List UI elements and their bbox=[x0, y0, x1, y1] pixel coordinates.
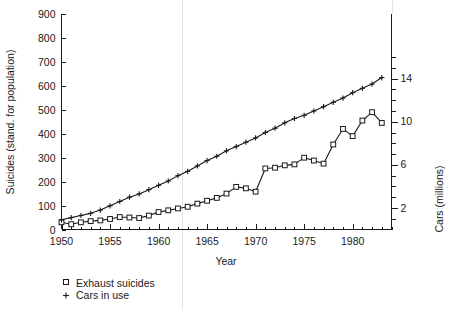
data-point-marker-square bbox=[224, 191, 229, 196]
left-tick-label: 400 bbox=[38, 128, 56, 140]
data-point-marker-square bbox=[88, 219, 93, 224]
x-axis-title: Year bbox=[215, 255, 237, 267]
data-point-marker-square bbox=[253, 189, 258, 194]
data-point-marker-square bbox=[350, 134, 355, 139]
data-point-marker-square bbox=[282, 163, 287, 168]
x-tick-label: 1955 bbox=[98, 235, 122, 247]
left-tick-label: 500 bbox=[38, 104, 56, 116]
right-tick-label: 2 bbox=[401, 202, 407, 214]
data-point-marker-square bbox=[341, 127, 346, 132]
left-tick-label: 300 bbox=[38, 152, 56, 164]
data-point-marker-square bbox=[379, 121, 384, 126]
x-tick-label: 1975 bbox=[292, 235, 316, 247]
left-tick-label: 800 bbox=[38, 32, 56, 44]
data-point-marker-square bbox=[244, 186, 249, 191]
left-tick-label: 900 bbox=[38, 8, 56, 20]
data-point-marker-square bbox=[185, 204, 190, 209]
data-point-marker-square bbox=[302, 155, 307, 160]
data-point-marker-square bbox=[370, 110, 375, 115]
data-point-marker-square bbox=[263, 166, 268, 171]
x-tick-label: 1965 bbox=[195, 235, 219, 247]
right-tick-label: 6 bbox=[401, 158, 407, 170]
exhaust-suicides-vs-cars-line-chart: 0100200300400500600700800900 19501955196… bbox=[0, 0, 455, 309]
data-point-marker-square bbox=[214, 195, 219, 200]
data-point-marker-square bbox=[311, 158, 316, 163]
data-point-marker-square bbox=[146, 213, 151, 218]
data-point-marker-square bbox=[195, 201, 200, 206]
data-point-marker-square bbox=[79, 220, 84, 225]
left-tick-label: 700 bbox=[38, 56, 56, 68]
data-point-marker-square bbox=[156, 210, 161, 215]
right-tick-label: 14 bbox=[401, 72, 413, 84]
data-point-marker-square bbox=[137, 216, 142, 221]
chart-figure: 0100200300400500600700800900 19501955196… bbox=[0, 0, 455, 309]
data-point-marker-square bbox=[69, 222, 74, 227]
data-point-marker-square bbox=[205, 198, 210, 203]
legend-square-open-icon bbox=[64, 280, 69, 285]
right-y-axis-title: Cars (millions) bbox=[433, 165, 445, 232]
data-point-marker-square bbox=[273, 165, 278, 170]
legend-label-cars-in-use: Cars in use bbox=[76, 289, 129, 301]
x-tick-label: 1970 bbox=[244, 235, 268, 247]
left-tick-label: 600 bbox=[38, 80, 56, 92]
data-point-marker-square bbox=[176, 206, 181, 211]
legend-label-exhaust-suicides: Exhaust suicides bbox=[76, 277, 155, 289]
legend-entry-exhaust-suicides: Exhaust suicides bbox=[64, 277, 155, 289]
data-point-marker-square bbox=[98, 218, 103, 223]
data-point-marker-square bbox=[117, 215, 122, 220]
data-point-marker-square bbox=[108, 217, 113, 222]
data-point-marker-square bbox=[234, 184, 239, 189]
data-point-marker-square bbox=[127, 215, 132, 220]
left-tick-label: 100 bbox=[38, 200, 56, 212]
data-point-marker-square bbox=[321, 161, 326, 166]
y-axis-title: Suicides (stand. for population) bbox=[4, 50, 16, 195]
x-tick-label: 1950 bbox=[50, 235, 74, 247]
left-tick-label: 200 bbox=[38, 176, 56, 188]
data-point-marker-square bbox=[331, 142, 336, 147]
x-tick-label: 1960 bbox=[147, 235, 171, 247]
right-tick-label: 10 bbox=[401, 115, 413, 127]
data-point-marker-square bbox=[360, 118, 365, 123]
x-tick-label: 1980 bbox=[341, 235, 365, 247]
data-point-marker-square bbox=[166, 208, 171, 213]
data-point-marker-square bbox=[292, 162, 297, 167]
